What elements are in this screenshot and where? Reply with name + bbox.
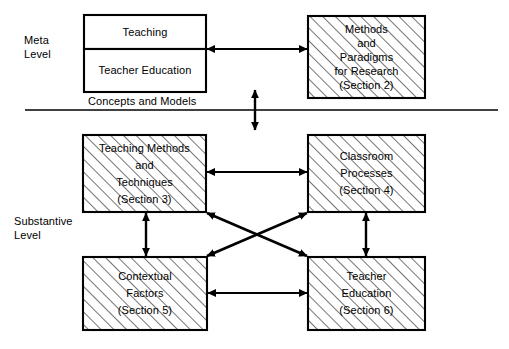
teacher-education-meta-box-shape <box>84 49 206 92</box>
substantive-level-label-line1: Substantive <box>14 214 73 228</box>
teacher-education-substantive-box-shape <box>308 257 425 330</box>
meta-level-label: Meta Level <box>24 33 51 61</box>
diagram-canvas: Meta Level Substantive Level Concepts an… <box>0 0 509 349</box>
teaching-box-shape <box>84 15 206 49</box>
meta-level-label-line1: Meta <box>24 33 51 47</box>
contextual-factors-box-shape <box>83 257 207 330</box>
substantive-level-label-line2: Level <box>14 228 73 242</box>
concepts-and-models-caption: Concepts and Models <box>86 95 198 108</box>
classroom-processes-box-shape <box>308 135 425 212</box>
methods-and-paradigms-box-shape <box>308 16 425 98</box>
meta-level-label-line2: Level <box>24 47 51 61</box>
substantive-level-label: Substantive Level <box>14 214 73 242</box>
diagram-graphics <box>0 0 509 349</box>
teaching-methods-box-shape <box>83 135 206 212</box>
